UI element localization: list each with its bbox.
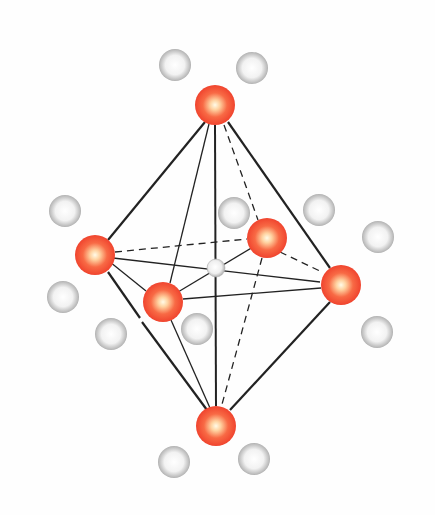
neighbor-atom: [238, 443, 270, 475]
diagram-canvas: [0, 0, 435, 515]
neighbor-atom: [303, 194, 335, 226]
neighbor-atom: [181, 313, 213, 345]
ligand-atom-right: [321, 265, 361, 305]
central-atom: [207, 259, 225, 277]
neighbor-atom: [236, 52, 268, 84]
edge-top-front: [170, 124, 209, 283]
edge-left-front-inner: [110, 262, 146, 291]
ligand-atom-left: [75, 235, 115, 275]
ligand-atom-bottom: [196, 406, 236, 446]
edge-back-right: [280, 252, 322, 272]
neighbor-atom: [47, 281, 79, 313]
neighbor-atom: [159, 49, 191, 81]
neighbor-atom: [95, 318, 127, 350]
ligand-atom-top: [195, 85, 235, 125]
octahedron-diagram: [0, 0, 435, 515]
edge-back-bottom: [221, 258, 262, 408]
edge-top-left: [108, 122, 205, 240]
neighbor-atom: [49, 195, 81, 227]
ligand-atom-back-right: [247, 218, 287, 258]
neighbor-atom: [158, 446, 190, 478]
neighbor-atom: [362, 221, 394, 253]
ligand-atom-front: [143, 282, 183, 322]
edge-left-front: [108, 272, 140, 318]
neighbor-atom: [218, 197, 250, 229]
neighbor-atom: [361, 316, 393, 348]
edge-left-back: [115, 239, 247, 252]
